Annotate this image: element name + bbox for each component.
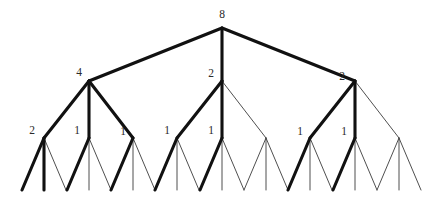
tree-edge-thin xyxy=(244,138,266,190)
tree-edge-thin xyxy=(377,138,399,190)
node-label-n01: 1 xyxy=(74,124,80,136)
node-label-n21: 1 xyxy=(341,125,347,137)
tree-edge-thick xyxy=(89,28,222,81)
tree-edge-thick xyxy=(44,81,89,138)
node-label-n0: 4 xyxy=(76,66,82,78)
tree-edge-thin xyxy=(133,138,155,190)
tree-edge-thick xyxy=(310,81,355,138)
tree-diagram-svg: 84222111111 xyxy=(0,0,443,203)
node-label-n02: 1 xyxy=(120,125,126,137)
tree-edge-thin xyxy=(266,138,288,190)
tree-edge-thick xyxy=(111,138,133,190)
tree-edge-thin xyxy=(355,81,399,138)
node-label-n2: 2 xyxy=(339,70,345,82)
tree-edge-thin xyxy=(222,81,266,138)
tree-edge-thin xyxy=(44,138,66,190)
tree-edge-thin xyxy=(355,138,377,190)
tree-edge-thin xyxy=(177,138,199,190)
tree-edge-thin xyxy=(310,138,332,190)
tree-edge-thick xyxy=(155,138,177,190)
node-label-n20: 1 xyxy=(297,125,303,137)
node-label-n11: 1 xyxy=(208,124,214,136)
tree-diagram-canvas: 84222111111 xyxy=(0,0,443,203)
edges-layer xyxy=(22,28,421,190)
node-label-n10: 1 xyxy=(164,124,170,136)
tree-edge-thin xyxy=(89,138,111,190)
tree-edge-thick xyxy=(222,28,355,81)
tree-edge-thick xyxy=(177,81,222,138)
tree-edge-thick xyxy=(22,138,44,190)
node-label-n1: 2 xyxy=(208,67,214,79)
tree-edge-thin xyxy=(399,138,421,190)
tree-edge-thick xyxy=(200,138,222,190)
tree-edge-thin xyxy=(222,138,244,190)
node-labels-layer: 84222111111 xyxy=(29,8,347,137)
tree-edge-thick xyxy=(89,81,133,138)
node-label-root: 8 xyxy=(219,8,225,20)
tree-edge-thick xyxy=(288,138,310,190)
tree-edge-thick xyxy=(67,138,89,190)
node-label-n00: 2 xyxy=(29,124,35,136)
tree-edge-thick xyxy=(333,138,355,190)
